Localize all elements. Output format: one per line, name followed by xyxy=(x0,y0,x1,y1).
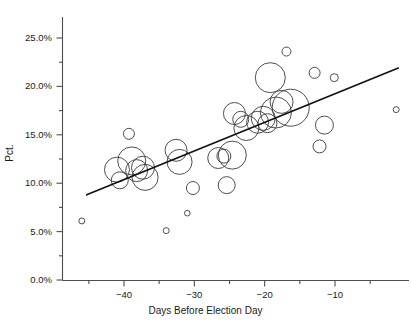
bubble-scatter-chart: 0.0%5.0%10.0%15.0%20.0%25.0% −40−30−20−1… xyxy=(0,0,411,325)
data-point-bubble xyxy=(185,210,191,216)
y-axis-tick-label: 5.0% xyxy=(0,227,52,237)
data-point-bubble xyxy=(315,116,333,134)
data-point-bubble xyxy=(393,107,399,113)
x-axis-title: Days Before Election Day xyxy=(0,306,411,316)
y-axis-tick-label: 10.0% xyxy=(0,178,52,188)
y-axis-ticks xyxy=(57,38,63,280)
data-point-bubble xyxy=(309,67,320,78)
data-point-bubbles xyxy=(79,47,399,234)
x-axis-tick-label: −40 xyxy=(116,290,132,300)
data-point-bubble xyxy=(223,103,245,125)
data-point-bubble xyxy=(218,177,235,194)
data-point-bubble xyxy=(218,141,246,169)
data-point-bubble xyxy=(313,140,326,153)
x-axis-tick-label: −10 xyxy=(327,290,343,300)
y-axis-tick-label: 20.0% xyxy=(0,82,52,92)
data-point-bubble xyxy=(234,116,259,141)
data-point-bubble xyxy=(123,128,134,139)
plot-area xyxy=(0,0,411,325)
data-point-bubble xyxy=(163,228,169,234)
data-point-bubble xyxy=(111,172,128,189)
data-point-bubble xyxy=(186,182,199,195)
axis-lines xyxy=(63,17,410,281)
x-axis-tick-label: −20 xyxy=(257,290,273,300)
y-axis-tick-label: 0.0% xyxy=(0,275,52,285)
x-axis-tick-label: −30 xyxy=(186,290,202,300)
data-point-bubble xyxy=(330,74,338,82)
y-axis-title: Pct. xyxy=(5,133,15,173)
data-point-bubble xyxy=(255,63,285,93)
y-axis-tick-label: 25.0% xyxy=(0,33,52,43)
data-point-bubble xyxy=(282,47,291,56)
x-axis-ticks xyxy=(89,281,370,287)
data-point-bubble xyxy=(233,111,249,127)
data-point-bubble xyxy=(79,218,85,224)
